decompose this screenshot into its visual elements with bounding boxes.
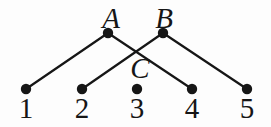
vertex-label-5: 5 xyxy=(240,92,255,124)
vertex-label-1: 1 xyxy=(19,92,34,124)
vertex-label-B: B xyxy=(155,2,173,34)
vertex-label-C: C xyxy=(130,52,150,84)
graph-diagram: AB12345C xyxy=(0,0,271,127)
vertex-label-3: 3 xyxy=(130,92,145,124)
vertex-label-2: 2 xyxy=(75,92,90,124)
vertex-label-A: A xyxy=(100,2,120,34)
edge-B-5 xyxy=(163,33,247,89)
vertex-label-4: 4 xyxy=(185,92,200,124)
graph-figure: AB12345C xyxy=(0,0,271,127)
